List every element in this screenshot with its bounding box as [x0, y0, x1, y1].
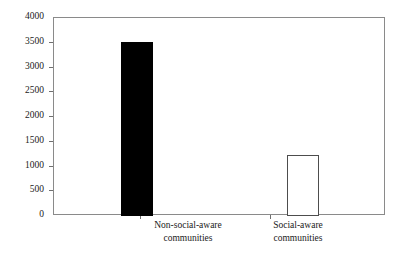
y-tick-label: 1500 — [25, 134, 44, 147]
y-tick-label: 4000 — [25, 10, 44, 23]
y-tick-label: 3500 — [25, 35, 44, 48]
x-axis-category-label: Social-aware communities — [238, 219, 358, 244]
bar — [287, 155, 319, 216]
y-tick-label: 0 — [39, 208, 44, 221]
x-axis-category-label: Non-social-aware communities — [128, 219, 248, 244]
y-tick-label: 1000 — [25, 159, 44, 172]
y-tick-label: 2500 — [25, 84, 44, 97]
y-tick-label: 3000 — [25, 60, 44, 73]
plot-area — [53, 17, 385, 215]
y-tick-label: 2000 — [25, 109, 44, 122]
bar-chart-figure: 05001000150020002500300035004000 Non-soc… — [0, 0, 402, 257]
bar — [121, 42, 153, 216]
y-tick-label: 500 — [30, 183, 44, 196]
